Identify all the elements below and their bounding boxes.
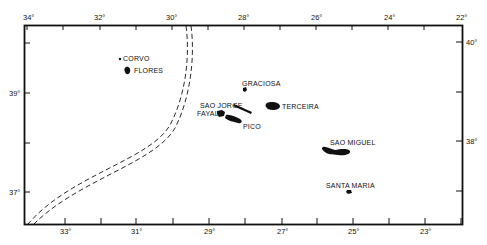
lon-label-top: 34°	[23, 13, 34, 22]
lon-label-top: 24°	[384, 13, 395, 22]
lon-label-top: 26°	[311, 13, 322, 22]
bottom-ticks	[65, 218, 461, 224]
lon-label-bottom: 25°	[348, 227, 359, 236]
island-sao-miguel	[322, 147, 350, 155]
lon-label-bottom: 27°	[277, 227, 288, 236]
lon-label-top: 32°	[94, 13, 105, 22]
lon-label-top: 22°	[456, 13, 467, 22]
label-terceira: TERCEIRA	[282, 103, 319, 110]
label-santa-maria: SANTA MARIA	[326, 182, 375, 189]
lon-label-bottom: 23°	[420, 227, 431, 236]
island-flores	[124, 67, 130, 74]
label-pico: PICO	[243, 123, 261, 130]
label-graciosa: GRACIOSA	[242, 80, 281, 87]
lon-label-bottom: 33°	[60, 227, 71, 236]
lat-label-left: 39°	[9, 89, 20, 98]
lon-label-top: 30°	[166, 13, 177, 22]
label-sao-miguel: SAO MIGUEL	[330, 139, 376, 146]
lat-label-right: 38°	[466, 137, 477, 146]
ridge-lines	[28, 26, 192, 224]
island-graciosa	[243, 87, 247, 92]
lat-label-left: 37°	[9, 188, 20, 197]
label-sao-jorge: SAO JORGE	[200, 102, 243, 109]
lon-label-top: 28°	[238, 13, 249, 22]
island-santa-maria	[346, 190, 352, 194]
label-corvo: CORVO	[123, 55, 150, 62]
right-ticks	[456, 42, 462, 191]
label-fayal: FAYAL	[197, 110, 219, 117]
island-terceira	[266, 102, 280, 110]
lat-label-right: 40°	[466, 38, 477, 47]
islands	[119, 58, 352, 194]
lon-label-bottom: 31°	[131, 227, 142, 236]
island-pico	[225, 115, 242, 123]
lon-label-bottom: 29°	[204, 227, 215, 236]
island-corvo	[119, 58, 121, 60]
label-flores: FLORES	[134, 67, 163, 74]
